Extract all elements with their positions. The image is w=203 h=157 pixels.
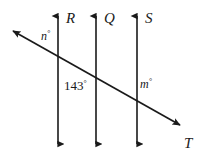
angle-143-value: 143 [64, 78, 84, 93]
line-r-label: R [65, 10, 75, 26]
line-q-label: Q [104, 10, 115, 26]
angle-label-m: m° [140, 77, 153, 91]
line-t-label: T [184, 135, 194, 151]
svg-text:n°: n° [41, 29, 51, 43]
angle-143-degree: ° [84, 79, 87, 88]
angle-n-degree: ° [47, 29, 51, 38]
geometry-diagram: R Q S T n° 143° m° [0, 0, 203, 157]
svg-text:143°: 143° [64, 78, 87, 93]
angle-m-value: m [140, 77, 149, 91]
vertical-line-r: R [58, 10, 75, 144]
vertical-line-q: Q [96, 10, 115, 144]
line-s-label: S [145, 10, 153, 26]
geometry-canvas: R Q S T n° 143° m° [0, 0, 203, 157]
svg-text:m°: m° [140, 77, 153, 91]
transversal-line-t: T [13, 31, 194, 151]
angle-label-143: 143° [64, 78, 87, 93]
angle-label-n: n° [41, 29, 51, 43]
angle-m-degree: ° [149, 77, 153, 86]
